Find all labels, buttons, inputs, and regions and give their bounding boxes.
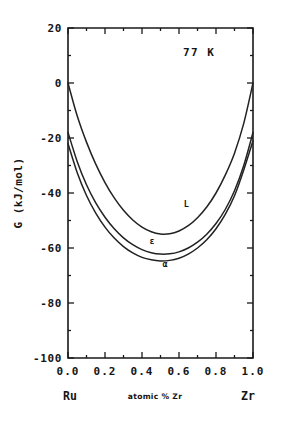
x-tick-label: 0.4 xyxy=(130,365,153,378)
y-tick-label: -100 xyxy=(33,352,62,365)
y-axis-ticks xyxy=(68,28,253,358)
x-axis-label: atomic % Zr xyxy=(128,392,182,401)
x-axis-ticks xyxy=(68,28,253,358)
curve-L xyxy=(68,83,253,234)
y-tick-label: 0 xyxy=(55,77,62,90)
y-tick-label: 20 xyxy=(48,22,62,35)
curve-label-alpha: α xyxy=(163,259,168,269)
y-tick-label: -60 xyxy=(40,242,62,255)
plot-frame xyxy=(68,28,253,358)
x-tick-label: 0.6 xyxy=(167,365,190,378)
curve-epsilon xyxy=(68,133,253,255)
curve-label-L: L xyxy=(184,199,189,209)
x-tick-label: 1.0 xyxy=(241,365,264,378)
curve-label-epsilon: ε xyxy=(150,236,155,246)
gibbs-energy-chart: 200-20-40-60-80-100 0.00.20.40.60.81.0 L… xyxy=(0,0,289,425)
x-axis-right-endpoint-label: Zr xyxy=(241,389,255,403)
chart-page: 200-20-40-60-80-100 0.00.20.40.60.81.0 L… xyxy=(0,0,289,425)
y-tick-label: -40 xyxy=(40,187,62,200)
y-axis-label: G (kJ/mol) xyxy=(12,157,25,228)
x-axis-tick-labels: 0.00.20.40.60.81.0 xyxy=(56,365,264,378)
x-tick-label: 0.2 xyxy=(93,365,116,378)
x-tick-label: 0.8 xyxy=(204,365,227,378)
temperature-annotation: 77 K xyxy=(183,46,216,59)
y-tick-label: -80 xyxy=(40,297,62,310)
curve-alpha xyxy=(68,141,253,261)
y-tick-label: -20 xyxy=(40,132,62,145)
data-curves xyxy=(68,83,253,261)
y-axis-tick-labels: 200-20-40-60-80-100 xyxy=(33,22,62,365)
x-tick-label: 0.0 xyxy=(56,365,79,378)
x-axis-left-endpoint-label: Ru xyxy=(63,389,77,403)
